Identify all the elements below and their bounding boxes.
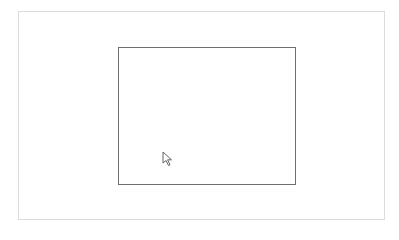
mouse-cursor-icon [162,151,174,167]
drawn-rectangle[interactable] [118,47,296,185]
